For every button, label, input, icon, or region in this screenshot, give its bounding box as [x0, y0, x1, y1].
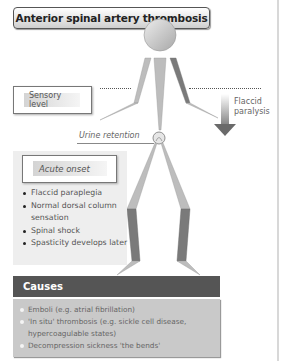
sensory-level-line-right: [189, 88, 261, 89]
right-shin: [177, 209, 190, 261]
urine-retention-pointer: [77, 143, 154, 144]
sensory-level-line-left: [100, 88, 131, 89]
list-item: Spinal shock: [23, 225, 129, 238]
urine-retention-label: Urine retention: [79, 131, 140, 141]
right-thigh: [161, 143, 190, 209]
causes-list: Emboli (e.g. atrial fibrillation) 'In si…: [20, 304, 223, 352]
left-thigh: [127, 143, 157, 209]
list-item: Decompression sickness 'the bends': [20, 340, 223, 352]
list-item: Flaccid paraplegia: [23, 187, 129, 200]
onset-panel: Acute onset Flaccid paraplegia Normal do…: [13, 151, 127, 265]
list-item: 'In situ' thrombosis (e.g. sickle cell d…: [20, 316, 223, 340]
bladder-icon: [153, 132, 165, 144]
left-forearm: [100, 103, 138, 120]
head-shape: [144, 19, 176, 51]
flaccid-label-line2: paralysis: [234, 107, 270, 117]
flaccid-paralysis-label: Flaccid paralysis: [234, 97, 270, 117]
right-forearm: [186, 103, 218, 118]
causes-heading: Causes: [13, 276, 220, 297]
right-upper-arm: [170, 58, 190, 103]
causes-panel: Emboli (e.g. atrial fibrillation) 'In si…: [13, 299, 220, 357]
onset-list: Flaccid paraplegia Normal dorsal column …: [23, 187, 129, 250]
onset-heading-box: Acute onset: [22, 155, 117, 183]
list-item: Spasticity develops later: [23, 237, 129, 250]
left-upper-arm: [134, 58, 151, 103]
flaccid-label-line1: Flaccid: [234, 97, 270, 107]
sensory-level-box: Sensory level: [13, 86, 92, 114]
onset-heading: Acute onset: [33, 161, 107, 176]
list-item: Emboli (e.g. atrial fibrillation): [20, 304, 223, 316]
right-foot: [177, 261, 200, 275]
down-arrow-icon: [221, 94, 229, 124]
spine-shape: [154, 58, 166, 130]
sensory-level-label: Sensory level: [24, 93, 80, 107]
list-item: Normal dorsal column sensation: [23, 200, 129, 225]
